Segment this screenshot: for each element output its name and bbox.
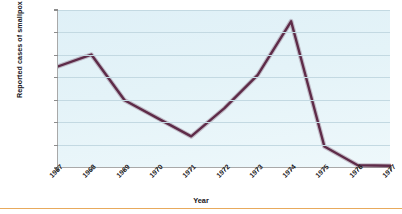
y-axis-tick: [54, 122, 58, 123]
plot-area: [57, 10, 390, 168]
gridline: [58, 145, 390, 146]
gridline: [58, 122, 390, 123]
y-axis-tick: [54, 55, 58, 56]
y-axis-tick: [54, 77, 58, 78]
gridline: [58, 55, 390, 56]
y-axis-tick: [54, 9, 58, 10]
gridline: [58, 100, 390, 101]
y-axis-tick: [54, 100, 58, 101]
y-axis-tick: [54, 145, 58, 146]
y-axis-title: Reported cases of smallpox in the world: [16, 0, 24, 103]
y-axis-tick: [54, 32, 58, 33]
gridline: [58, 32, 390, 33]
bottom-accent-rule: [0, 208, 402, 209]
smallpox-line-chart: Reported cases of smallpox in the world …: [0, 0, 402, 214]
x-axis-tick-label: 1967: [48, 163, 64, 179]
gridline: [58, 77, 390, 78]
gridline: [58, 10, 390, 11]
x-axis-title: Year: [0, 196, 402, 205]
